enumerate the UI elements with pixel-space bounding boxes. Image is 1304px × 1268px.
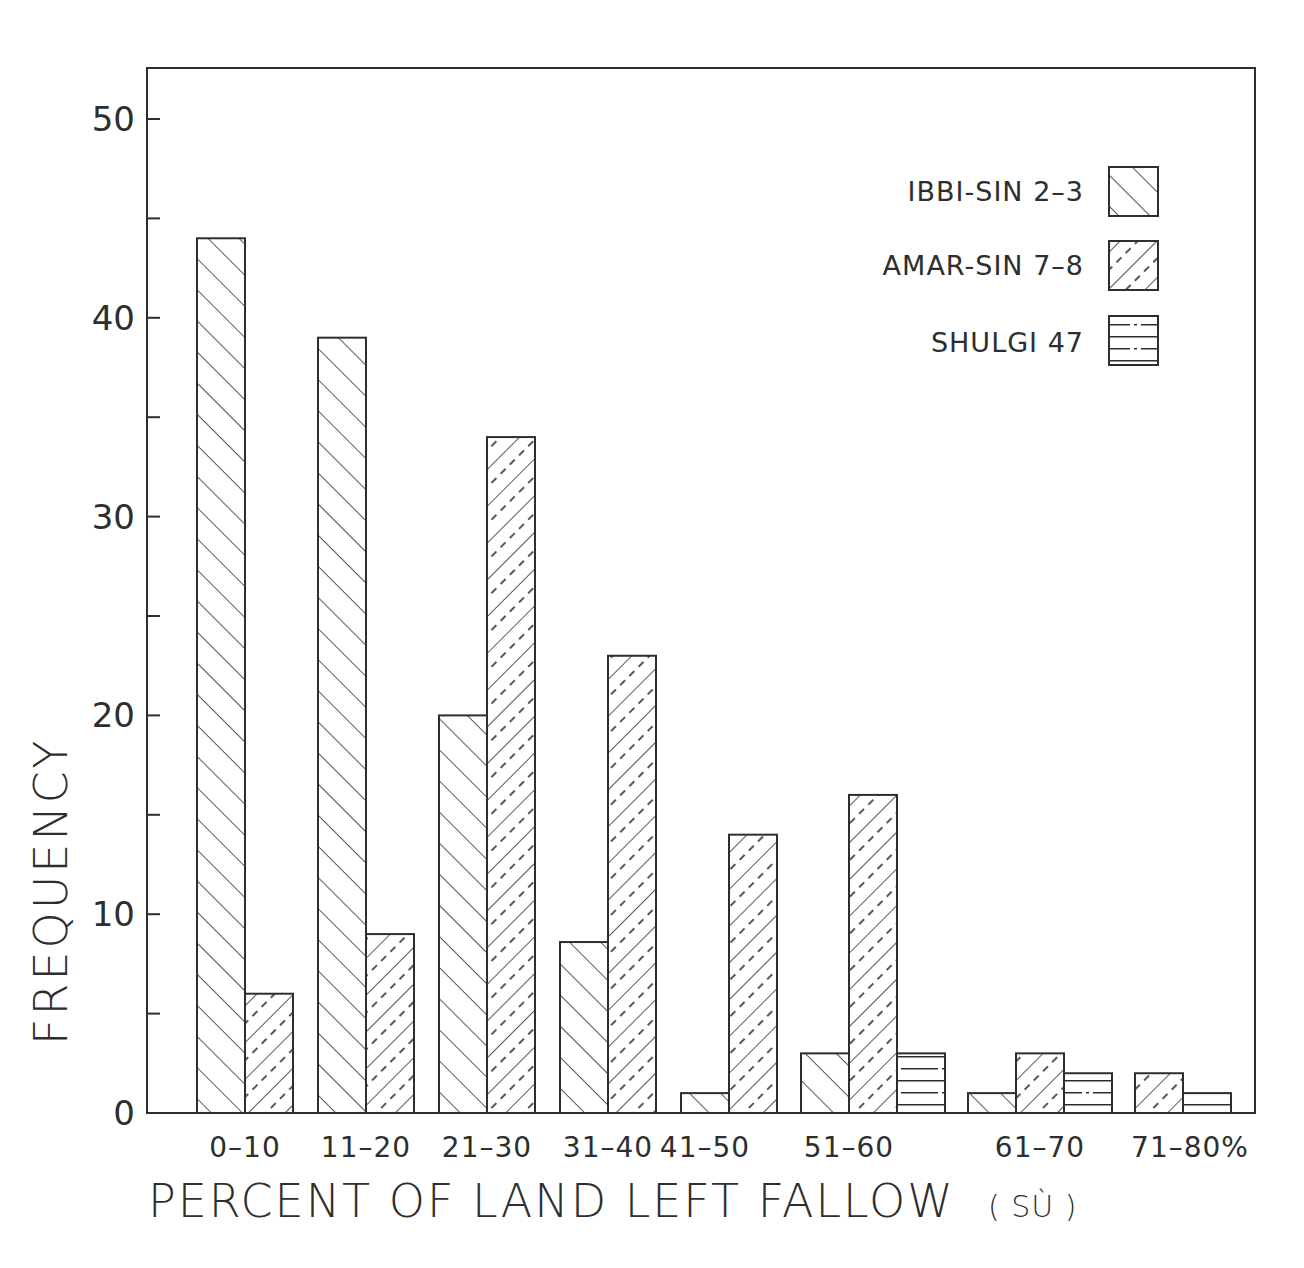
y-tick-label: 20	[92, 695, 135, 735]
bar-ibbi-sin-outline	[801, 1053, 849, 1113]
x-tick-label: 61–70	[995, 1131, 1085, 1164]
y-tick-label: 0	[113, 1093, 135, 1133]
bars	[197, 238, 1231, 1113]
bar-ibbi-sin-outline	[318, 338, 366, 1113]
bar-shulgi-outline	[1183, 1093, 1231, 1113]
bar-shulgi-outline	[897, 1053, 945, 1113]
y-axis-label: FREQUENCY	[28, 738, 74, 1045]
plot-frame	[147, 68, 1255, 1113]
x-tick-label: 51–60	[804, 1131, 894, 1164]
legend-label-ibbi-sin: IBBI-SIN 2–3	[908, 178, 1084, 205]
x-axis-label-unit: ( SÙ )	[988, 1189, 1077, 1224]
bar-amar-sin-outline	[849, 795, 897, 1113]
bar-chart: 01020304050 0–1011–2021–3031–4041–5051–6…	[0, 0, 1304, 1268]
y-tick-label: 50	[92, 99, 135, 139]
x-tick-label: 71–80%	[1131, 1131, 1249, 1164]
legend-label-amar-sin: AMAR-SIN 7–8	[883, 252, 1084, 279]
x-tick-label: 0–10	[209, 1131, 280, 1164]
bar-amar-sin-outline	[245, 994, 293, 1113]
legend-swatch-ibbi-sin	[1109, 167, 1158, 216]
bar-amar-sin-outline	[366, 934, 414, 1113]
legend-swatch-shulgi	[1109, 316, 1158, 365]
y-tick-label: 10	[92, 894, 135, 934]
bar-shulgi-outline	[1064, 1073, 1112, 1113]
bar-amar-sin-outline	[608, 656, 656, 1113]
x-axis-label: PERCENT OF LAND LEFT FALLOW ( SÙ )	[148, 1178, 1078, 1224]
bar-ibbi-sin-outline	[197, 238, 245, 1113]
bar-ibbi-sin-outline	[968, 1093, 1016, 1113]
y-tick-label: 40	[92, 298, 135, 338]
legend-label-shulgi: SHULGI 47	[931, 329, 1084, 356]
x-tick-label: 31–40	[563, 1131, 653, 1164]
legend-swatch-amar-sin	[1109, 241, 1158, 290]
legend-swatches	[1109, 167, 1158, 365]
x-axis-tick-labels: 0–1011–2021–3031–4041–5051–6061–7071–80%	[209, 1131, 1249, 1164]
y-tick-label: 30	[92, 497, 135, 537]
bar-amar-sin-outline	[1135, 1073, 1183, 1113]
bar-amar-sin-outline	[1016, 1053, 1064, 1113]
bar-amar-sin-outline	[729, 835, 777, 1113]
bar-ibbi-sin-outline	[439, 715, 487, 1113]
x-axis-label-text: PERCENT OF LAND LEFT FALLOW	[148, 1174, 955, 1228]
x-tick-label: 11–20	[321, 1131, 411, 1164]
x-tick-label: 41–50	[660, 1131, 750, 1164]
y-axis: 01020304050	[92, 99, 160, 1133]
x-tick-label: 21–30	[442, 1131, 532, 1164]
bar-ibbi-sin-outline	[560, 942, 608, 1113]
bar-ibbi-sin-outline	[681, 1093, 729, 1113]
bar-amar-sin-outline	[487, 437, 535, 1113]
